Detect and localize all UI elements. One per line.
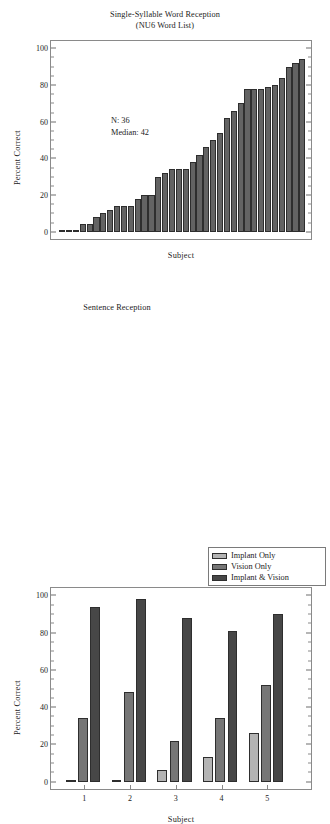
bar	[136, 599, 146, 781]
bar	[59, 230, 65, 232]
y-tick-major	[306, 85, 311, 86]
y-tick-minor	[51, 725, 54, 726]
y-tick-label: 60	[40, 117, 48, 126]
y-tick-major	[306, 669, 311, 670]
y-tick-label: 80	[40, 628, 48, 637]
y-tick-major	[51, 121, 56, 122]
y-tick-major	[306, 707, 311, 708]
bar	[87, 224, 93, 231]
y-tick-minor	[51, 623, 54, 624]
y-tick-minor	[308, 735, 311, 736]
y-tick-minor	[308, 112, 311, 113]
y-tick-minor	[308, 176, 311, 177]
y-tick-minor	[51, 75, 54, 76]
y-tick-major	[51, 781, 56, 782]
bar	[292, 63, 298, 232]
y-tick-minor	[308, 204, 311, 205]
y-tick-minor	[51, 716, 54, 717]
y-tick-label: 20	[40, 740, 48, 749]
bar	[114, 206, 120, 232]
bar	[258, 89, 264, 232]
x-tick-mark	[222, 785, 223, 789]
bar	[176, 169, 182, 231]
legend-swatch-icon	[212, 575, 227, 581]
legend-item-implant-only[interactable]: Implant Only	[212, 550, 321, 561]
y-tick-label: 80	[40, 81, 48, 90]
y-tick-minor	[51, 185, 54, 186]
y-tick-minor	[51, 697, 54, 698]
bar	[157, 770, 167, 781]
word-reception-title: Single-Syllable Word Reception (NU6 Word…	[0, 9, 330, 31]
bar	[231, 111, 237, 232]
bar	[124, 692, 134, 781]
bar	[203, 147, 209, 231]
y-tick-minor	[308, 94, 311, 95]
bar	[265, 87, 271, 232]
y-tick-minor	[51, 167, 54, 168]
y-tick-major	[51, 195, 56, 196]
bar	[183, 169, 189, 231]
annotation-median: Median: 42	[111, 127, 149, 139]
y-tick-minor	[308, 185, 311, 186]
legend-label: Implant & Vision	[231, 572, 289, 583]
y-tick-minor	[308, 167, 311, 168]
bar	[182, 618, 192, 782]
y-tick-minor	[308, 651, 311, 652]
bar	[196, 155, 202, 232]
x-tick-label: 1	[82, 794, 86, 803]
y-tick-major	[306, 158, 311, 159]
y-tick-label: 40	[40, 703, 48, 712]
y-tick-major	[51, 707, 56, 708]
bar	[66, 230, 72, 232]
y-tick-minor	[51, 94, 54, 95]
y-tick-minor	[308, 679, 311, 680]
y-tick-major	[51, 85, 56, 86]
y-tick-minor	[308, 130, 311, 131]
y-tick-minor	[308, 660, 311, 661]
legend-item-vision-only[interactable]: Vision Only	[212, 561, 321, 572]
y-tick-label: 20	[40, 191, 48, 200]
bar	[80, 224, 86, 231]
y-tick-minor	[51, 176, 54, 177]
y-tick-minor	[51, 651, 54, 652]
y-tick-minor	[308, 772, 311, 773]
y-tick-label: 100	[36, 591, 48, 600]
y-tick-minor	[308, 614, 311, 615]
word-reception-title-line1: Single-Syllable Word Reception	[0, 9, 330, 20]
sentence-reception-figure: Sentence Reception Implant OnlyVision On…	[0, 270, 330, 567]
word-reception-figure: Single-Syllable Word Reception (NU6 Word…	[0, 0, 330, 270]
y-tick-minor	[51, 772, 54, 773]
y-tick-minor	[51, 213, 54, 214]
x-tick-label: 3	[174, 794, 178, 803]
y-tick-minor	[51, 735, 54, 736]
y-tick-major	[306, 121, 311, 122]
y-tick-minor	[51, 66, 54, 67]
word-reception-y-axis-label: Percent Correct	[13, 130, 22, 185]
y-tick-minor	[51, 753, 54, 754]
y-tick-major	[306, 231, 311, 232]
word-reception-bars	[51, 41, 311, 239]
y-tick-major	[306, 632, 311, 633]
y-tick-major	[306, 781, 311, 782]
word-reception-annotation: N: 36 Median: 42	[111, 115, 149, 139]
y-tick-minor	[308, 604, 311, 605]
bar	[217, 133, 223, 232]
word-reception-x-axis-label: Subject	[50, 251, 312, 260]
bar	[112, 780, 122, 782]
y-tick-minor	[51, 103, 54, 104]
bar	[244, 89, 250, 232]
bar	[148, 195, 154, 232]
bar	[272, 85, 278, 232]
legend-item-implant-vision[interactable]: Implant & Vision	[212, 572, 321, 583]
x-tick-label: 2	[128, 794, 132, 803]
bar	[135, 199, 141, 232]
y-tick-major	[306, 744, 311, 745]
y-tick-major	[51, 158, 56, 159]
y-tick-minor	[51, 762, 54, 763]
bar	[128, 206, 134, 232]
bar	[203, 757, 213, 781]
bar	[107, 210, 113, 232]
bar	[155, 177, 161, 232]
y-tick-minor	[51, 140, 54, 141]
legend-label: Implant Only	[231, 550, 275, 561]
